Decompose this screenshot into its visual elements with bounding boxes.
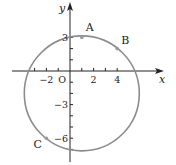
y-tick-label: 3 xyxy=(62,32,68,43)
y-tick-label: −6 xyxy=(54,133,68,144)
x-tick-label: 2 xyxy=(91,74,97,85)
x-tick-label: −2 xyxy=(39,74,53,85)
point-label-c: C xyxy=(33,138,41,151)
x-axis-label: x xyxy=(159,73,166,86)
x-tick-label: 4 xyxy=(114,74,120,85)
point-label-a: A xyxy=(85,21,95,34)
coordinate-diagram: −2243−3−6OxyABC xyxy=(0,0,176,165)
circle xyxy=(24,36,139,151)
points xyxy=(45,36,119,140)
ticks xyxy=(35,37,118,149)
point-label-b: B xyxy=(121,34,129,47)
y-axis-label: y xyxy=(58,2,66,15)
point-a xyxy=(80,36,84,40)
y-tick-label: −3 xyxy=(54,99,68,110)
point-c xyxy=(45,136,49,140)
labels: −2243−3−6OxyABC xyxy=(33,2,165,151)
origin-label: O xyxy=(58,74,66,85)
point-b xyxy=(115,47,119,51)
